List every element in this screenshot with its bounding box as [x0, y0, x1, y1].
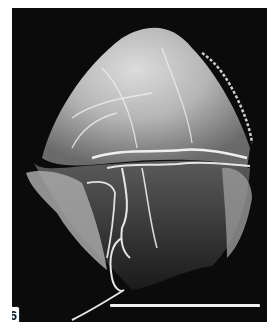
- panel-label: 6: [12, 306, 20, 322]
- micrograph-frame: 6: [12, 8, 267, 322]
- specimen-image: [12, 8, 267, 322]
- scale-bar: [110, 304, 260, 307]
